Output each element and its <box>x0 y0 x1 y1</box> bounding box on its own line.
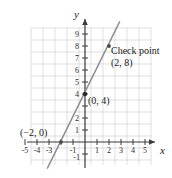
y-tick-label--1: -1 <box>73 153 80 162</box>
x-tick-label--5: -5 <box>22 146 29 155</box>
y-axis-arrowhead <box>82 19 88 25</box>
y-tick-label-5: 5 <box>75 78 79 87</box>
x-tick-label--4: -4 <box>34 146 41 155</box>
y-tick-label-6: 6 <box>75 66 79 75</box>
point-y-intercept <box>83 92 87 96</box>
point-x-intercept <box>59 140 63 144</box>
x-tick-label-3: 3 <box>119 146 123 155</box>
y-tick-label-4: 4 <box>75 90 79 99</box>
x-tick-label-1: 1 <box>95 146 99 155</box>
y-tick-label-9: 9 <box>75 30 79 39</box>
y-tick-label-8: 8 <box>75 42 79 51</box>
x-intercept-label: (−2, 0) <box>20 127 47 139</box>
x-tick-label-5: 5 <box>143 146 147 155</box>
x-tick-label-2: 2 <box>107 146 111 155</box>
y-axis-label: y <box>73 8 79 20</box>
x-axis-arrowhead <box>149 139 155 145</box>
y-tick-label-2: 2 <box>75 114 79 123</box>
check-point-coords: (2, 8) <box>111 57 133 69</box>
y-intercept-label: (0, 4) <box>88 95 110 107</box>
check-point-title: Check point <box>111 45 160 56</box>
y-tick-label-7: 7 <box>75 54 79 63</box>
coordinate-graph-figure: -5 -4 -3 -1 1 2 3 4 5 9 8 7 6 5 4 2 1 -1… <box>0 0 172 178</box>
graph-canvas: -5 -4 -3 -1 1 2 3 4 5 9 8 7 6 5 4 2 1 -1… <box>0 0 172 178</box>
x-tick-label--3: -3 <box>46 146 53 155</box>
y-tick-label-1: 1 <box>75 126 79 135</box>
x-tick-label-4: 4 <box>131 146 135 155</box>
x-axis-label: x <box>159 144 165 156</box>
